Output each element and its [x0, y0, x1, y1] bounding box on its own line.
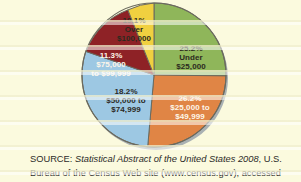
pie-slice-under-25000[interactable] — [154, 3, 226, 76]
chart-page: 25.2% Under $25,000 26.2% $25,000 to $49… — [0, 0, 301, 182]
pie-chart-figure: 25.2% Under $25,000 26.2% $25,000 to $49… — [0, 0, 301, 150]
pie-chart-svg — [78, 0, 230, 152]
source-note: SOURCE: Statistical Abstract of the Unit… — [30, 153, 298, 180]
pie-slice-25000-49999[interactable] — [148, 75, 226, 147]
source-title: Statistical Abstract of the United State… — [75, 154, 259, 164]
source-label: SOURCE: — [30, 154, 75, 164]
